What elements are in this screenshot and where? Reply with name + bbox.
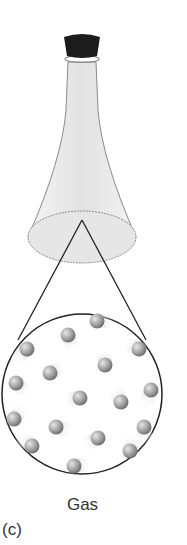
gas-molecule <box>144 383 159 398</box>
gas-molecule <box>73 391 88 406</box>
gas-label: Gas <box>0 495 165 515</box>
gas-molecule <box>20 342 35 357</box>
gas-molecule <box>114 395 129 410</box>
gas-molecule <box>7 412 22 427</box>
gas-molecule <box>137 420 152 435</box>
gas-molecule <box>91 431 106 446</box>
gas-molecule <box>90 314 105 329</box>
gas-molecule <box>67 459 82 474</box>
gas-molecule <box>61 328 76 343</box>
gas-molecule <box>49 420 64 435</box>
gas-molecule <box>43 366 58 381</box>
gas-molecule <box>25 439 40 454</box>
flask <box>28 34 136 263</box>
gas-molecule <box>9 376 24 391</box>
flask-base-ellipse <box>28 211 136 263</box>
gas-molecule <box>123 444 138 459</box>
gas-flask-diagram <box>0 0 187 545</box>
gas-molecule <box>132 342 147 357</box>
gas-molecule <box>98 358 113 373</box>
stopper <box>64 34 100 58</box>
part-label: (c) <box>2 520 22 540</box>
